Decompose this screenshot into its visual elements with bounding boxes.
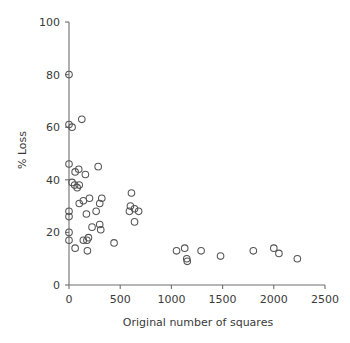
y-axis-tick-label: 0 — [53, 279, 60, 292]
scatter-plot-figure: 020406080100 05001000150020002500 Origin… — [0, 0, 350, 343]
y-axis-tick-label: 100 — [39, 16, 60, 29]
x-axis-title: Original number of squares — [123, 316, 274, 329]
x-axis-tick-label: 0 — [66, 293, 73, 306]
y-axis-tick-label: 20 — [46, 226, 60, 239]
y-axis-tick-label: 40 — [46, 174, 60, 187]
x-axis-tick-label: 1000 — [157, 293, 185, 306]
chart-canvas: 020406080100 05001000150020002500 Origin… — [0, 0, 350, 343]
x-axis-tick-label: 2500 — [311, 293, 339, 306]
y-axis-title: % Loss — [16, 131, 29, 169]
x-axis-tick-label: 1500 — [209, 293, 237, 306]
y-axis-tick-label: 80 — [46, 69, 60, 82]
x-axis-tick-label: 2000 — [260, 293, 288, 306]
y-axis-tick-label: 60 — [46, 121, 60, 134]
x-axis-tick-label: 500 — [110, 293, 131, 306]
